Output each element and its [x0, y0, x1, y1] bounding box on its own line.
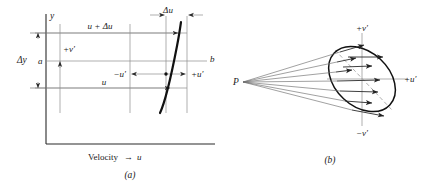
- panel-a-velocity-profile-curve: [160, 22, 181, 113]
- panel-a-u-plus-delta-u-label: u + Δu: [88, 21, 113, 31]
- panel-a-horizontal-gridlines: [35, 33, 187, 88]
- panel-a-x-axis-label-text: Velocity: [88, 152, 118, 162]
- panel-a-u-label: u: [102, 77, 107, 87]
- panel-a-x-axis-label-var: u: [137, 152, 142, 162]
- panel-a-point-a-label: a: [38, 56, 43, 66]
- panel-a: y Δy Δu u + Δu u a b: [16, 5, 215, 181]
- velocity-fluctuation-figure: y Δy Δu u + Δu u a b: [0, 0, 429, 184]
- panel-a-x-axis-label-arrow: →: [124, 152, 133, 162]
- panel-a-minus-u-prime-label: −u′: [113, 69, 127, 79]
- panel-a-plus-u-prime-label: +u′: [191, 69, 205, 79]
- panel-b-plus-u-prime-label: +u′: [404, 74, 418, 84]
- panel-a-caption: (a): [124, 170, 135, 181]
- figure-root: y Δy Δu u + Δu u a b: [0, 0, 429, 184]
- panel-a-plus-v-prime-label: +v′: [63, 44, 76, 54]
- panel-a-vertical-gridlines: [60, 16, 187, 113]
- panel-b-plus-v-prime-label: +v′: [356, 23, 369, 33]
- panel-a-delta-y-label: Δy: [16, 55, 28, 65]
- panel-b-rays-from-p: [243, 52, 352, 110]
- panel-b-minus-v-prime-label: −v′: [356, 128, 369, 138]
- panel-a-y-axis-label: y: [49, 11, 55, 21]
- panel-a-u-prime-measures: [132, 72, 186, 75]
- panel-b-origin-label: P: [232, 77, 239, 87]
- panel-a-x-axis-label: Velocity → u: [88, 152, 142, 162]
- panel-b-caption: (b): [324, 155, 335, 166]
- panel-a-delta-u-label: Δu: [162, 5, 173, 15]
- panel-a-point-b-label: b: [210, 54, 215, 64]
- panel-b: P +v′ −v′ +u′ (b): [232, 23, 418, 166]
- panel-a-mean-point-marker: [164, 72, 167, 75]
